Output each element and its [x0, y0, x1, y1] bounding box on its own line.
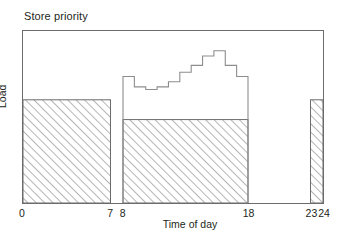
plot-canvas — [23, 31, 323, 203]
x-axis-title-text: Time of day — [163, 218, 217, 230]
y-axis-title: Load — [0, 85, 8, 108]
chart-figure: Store priority Load 078182324 Time of da… — [0, 0, 340, 244]
chart-title: Store priority — [24, 10, 88, 22]
load-bar — [23, 100, 110, 203]
chart-svg — [23, 31, 323, 203]
load-bar — [311, 100, 323, 203]
x-axis-title: Time of day — [0, 218, 340, 230]
load-bar — [123, 120, 248, 203]
load-bars — [23, 100, 323, 203]
plot-area — [22, 30, 324, 204]
